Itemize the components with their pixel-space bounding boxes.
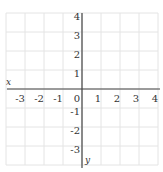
x-tick-label: 1	[95, 93, 101, 104]
x-tick-label: 4	[152, 93, 158, 104]
x-tick-labels: -3-2-101234	[15, 93, 158, 104]
axes	[7, 13, 160, 168]
y-tick-label: 1	[74, 68, 80, 79]
x-tick-label: -2	[34, 93, 44, 104]
y-axis-label: y	[84, 155, 91, 165]
x-tick-label: -1	[53, 93, 63, 104]
y-tick-label: -1	[70, 106, 80, 117]
y-tick-label: -2	[70, 125, 80, 136]
x-tick-label: -3	[15, 93, 25, 104]
y-tick-label: 4	[74, 11, 80, 22]
y-tick-label: -3	[70, 144, 80, 155]
y-tick-labels: 4321-1-2-3	[70, 11, 80, 155]
coordinate-grid: -3-2-101234 4321-1-2-3 x y	[0, 0, 163, 172]
y-tick-label: 2	[74, 49, 80, 60]
x-axis-label: x	[6, 77, 11, 87]
x-tick-label: 2	[114, 93, 120, 104]
x-tick-label: 0	[74, 93, 80, 104]
x-tick-label: 3	[133, 93, 139, 104]
y-tick-label: 3	[74, 30, 80, 41]
